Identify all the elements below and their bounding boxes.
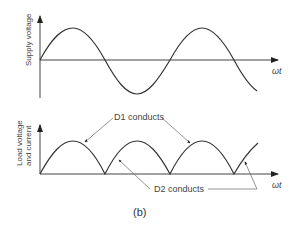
bottom-x-axis-label: ωt (272, 180, 282, 190)
d1-conducts-label: D1 conducts (114, 112, 164, 122)
figure-caption: (b) (133, 206, 146, 218)
rectifier-waveform-diagram: Supply voltage ωt Load voltage and curre… (0, 0, 294, 226)
supply-voltage-axis-label: Supply voltage (24, 14, 33, 66)
load-axis-label-line2: and current (24, 126, 33, 166)
bottom-axes (40, 125, 278, 174)
load-voltage-curve (40, 141, 258, 174)
supply-voltage-curve (40, 28, 257, 94)
top-x-axis-label: ωt (272, 66, 282, 76)
d2-conducts-label: D2 conducts (154, 184, 204, 194)
load-axis-label-line1: Load voltage (15, 120, 24, 166)
